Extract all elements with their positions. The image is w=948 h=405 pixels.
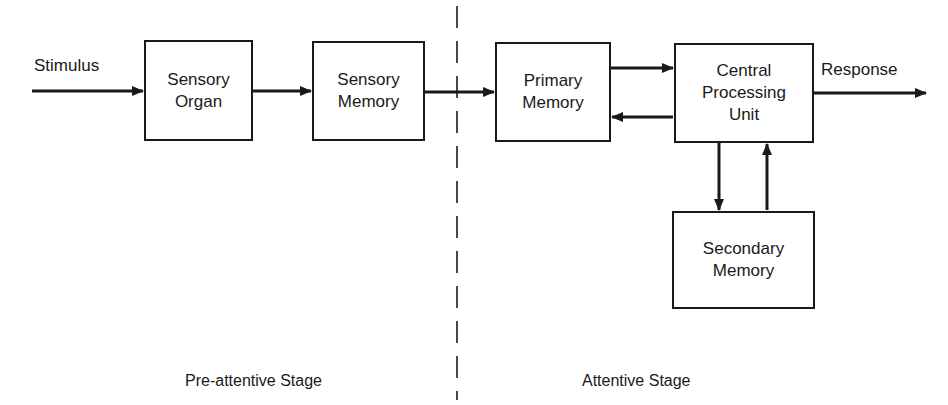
central-processing-unit-label: Central Processing Unit bbox=[702, 60, 786, 126]
secondary-memory-box: Secondary Memory bbox=[672, 211, 815, 309]
central-processing-unit-box: Central Processing Unit bbox=[674, 43, 814, 143]
sensory-memory-box: Sensory Memory bbox=[312, 41, 425, 141]
primary-memory-label: Primary Memory bbox=[522, 70, 583, 114]
sensory-memory-label: Sensory Memory bbox=[337, 69, 399, 113]
secondary-memory-label: Secondary Memory bbox=[703, 238, 784, 282]
sensory-organ-box: Sensory Organ bbox=[144, 40, 253, 141]
stimulus-label: Stimulus bbox=[34, 56, 99, 76]
information-processing-diagram: Stimulus Response Sensory Organ Sensory … bbox=[0, 0, 948, 405]
response-label: Response bbox=[821, 60, 898, 80]
sensory-organ-label: Sensory Organ bbox=[167, 69, 229, 113]
attentive-stage-label: Attentive Stage bbox=[582, 371, 691, 391]
pre-attentive-stage-label: Pre-attentive Stage bbox=[185, 371, 322, 391]
primary-memory-box: Primary Memory bbox=[495, 42, 611, 142]
